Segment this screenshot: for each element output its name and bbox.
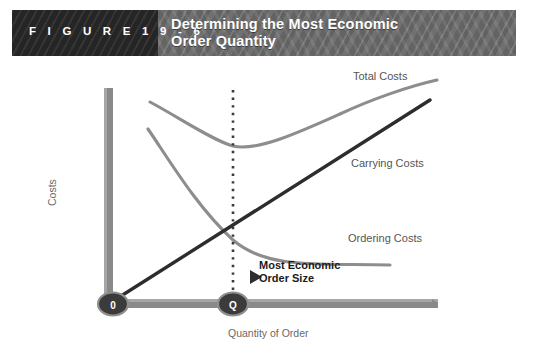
annotation-line-2: Order Size [259,272,340,285]
origin-node-label: 0 [103,300,123,311]
chart-plot-area: 0 Q Total Costs Carrying Costs Ordering … [0,56,534,353]
figure-title: Determining the Most Economic Order Quan… [171,16,501,50]
carrying-costs-label: Carrying Costs [351,157,424,169]
y-axis-highlight [104,88,107,307]
chart-svg [0,56,534,353]
total-costs-label: Total Costs [353,70,407,82]
figure-header-banner: F I G U R E 1 9 - 6 Determining the Most… [12,10,516,56]
ordering-costs-label: Ordering Costs [348,232,422,244]
most-economic-order-size-annotation: Most Economic Order Size [259,259,340,284]
x-axis-title: Quantity of Order [228,327,309,339]
optimum-node-label: Q [223,300,243,311]
annotation-line-1: Most Economic [259,259,340,272]
x-axis-highlight [104,299,438,302]
figure-title-line-1: Determining the Most Economic [171,16,501,33]
figure-19-6: F I G U R E 1 9 - 6 Determining the Most… [0,0,534,353]
figure-title-line-2: Order Quantity [171,33,501,50]
y-axis-title: Costs [46,179,58,206]
total-costs-curve [150,80,437,147]
